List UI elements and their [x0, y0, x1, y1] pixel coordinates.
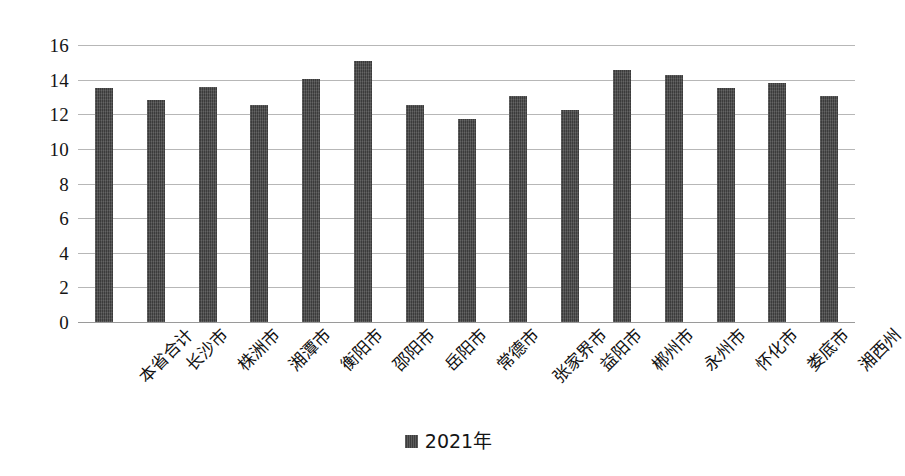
- x-tick-label: 衡阳市: [338, 326, 386, 374]
- x-tick-label-text: 怀化市: [752, 326, 800, 374]
- x-tick-label: 永州市: [701, 326, 749, 374]
- bar: [95, 88, 113, 322]
- bar: [302, 79, 320, 322]
- y-tick-label: 2: [59, 278, 69, 297]
- x-tick-label-text: 湘潭市: [286, 326, 334, 374]
- x-tick-label-text: 株洲市: [234, 326, 282, 374]
- bar: [717, 88, 735, 322]
- x-tick-label-text: 常德市: [493, 326, 541, 374]
- x-tick-label-text: 邵阳市: [390, 326, 438, 374]
- bar: [458, 119, 476, 322]
- x-tick-label-text: 娄底市: [804, 326, 852, 374]
- bar: [820, 96, 838, 322]
- bars-layer: [78, 45, 855, 322]
- y-tick-label: 10: [50, 139, 69, 158]
- x-axis-category-labels: 本省合计长沙市株洲市湘潭市衡阳市邵阳市岳阳市常德市张家界市益阳市郴州市永州市怀化…: [78, 326, 855, 436]
- bar: [561, 110, 579, 322]
- y-tick-label: 14: [50, 70, 69, 89]
- legend-label: 2021年: [425, 432, 492, 451]
- x-tick-label-text: 岳阳市: [442, 326, 490, 374]
- x-tick-label: 怀化市: [752, 326, 800, 374]
- x-tick-label: 常德市: [493, 326, 541, 374]
- x-tick-label: 娄底市: [804, 326, 852, 374]
- x-tick-label-text: 郴州市: [649, 326, 697, 374]
- legend-swatch-icon: [405, 435, 418, 448]
- y-tick-label: 8: [59, 174, 69, 193]
- bar: [406, 105, 424, 322]
- y-tick-label: 12: [50, 105, 69, 124]
- y-tick-label: 16: [50, 36, 69, 55]
- x-tick-label: 邵阳市: [390, 326, 438, 374]
- y-tick-label: 6: [59, 209, 69, 228]
- x-tick-label-text: 衡阳市: [338, 326, 386, 374]
- y-tick-label: 0: [59, 313, 69, 332]
- x-tick-label-text: 湘西州: [856, 326, 904, 374]
- chart-legend: 2021年: [0, 432, 897, 451]
- bar: [665, 75, 683, 322]
- bar: [768, 83, 786, 322]
- plot-area: 1614121086420: [78, 45, 855, 322]
- bar: [354, 61, 372, 322]
- bar: [199, 87, 217, 322]
- bar: [509, 96, 527, 322]
- x-tick-label: 湘潭市: [286, 326, 334, 374]
- bar: [613, 70, 631, 322]
- y-tick-label: 4: [59, 243, 69, 262]
- x-tick-label: 岳阳市: [442, 326, 490, 374]
- bar: [250, 105, 268, 322]
- x-tick-label: 郴州市: [649, 326, 697, 374]
- x-tick-label-text: 永州市: [701, 326, 749, 374]
- gridline: [78, 322, 855, 323]
- x-tick-label: 株洲市: [234, 326, 282, 374]
- bar: [147, 100, 165, 322]
- x-tick-label: 湘西州: [856, 326, 904, 374]
